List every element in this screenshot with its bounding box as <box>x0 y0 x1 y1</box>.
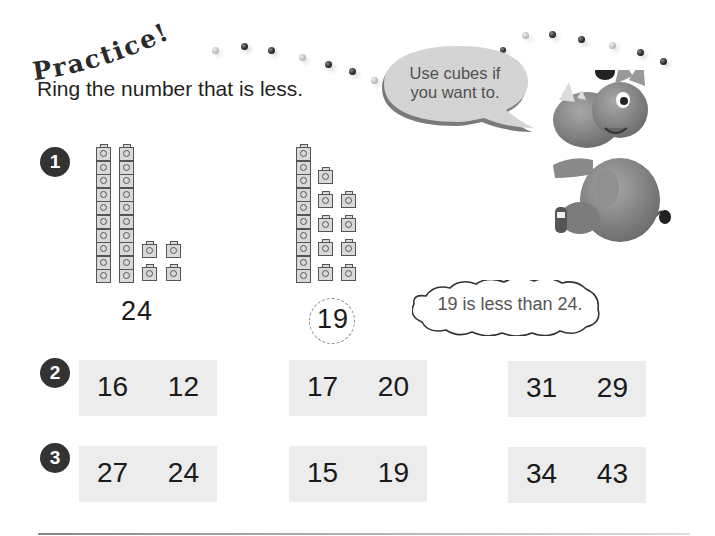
question-badge-3: 3 <box>40 443 70 473</box>
unit-cube <box>96 229 111 243</box>
unit-cube <box>318 170 333 184</box>
unit-cube <box>119 269 134 283</box>
number-pair-box: 27 24 <box>79 446 217 502</box>
dot-decoration <box>578 36 585 43</box>
unit-cube <box>96 256 111 270</box>
svg-text:Practice!: Practice! <box>31 17 174 86</box>
number-pair-box: 16 12 <box>79 360 217 416</box>
unit-cube <box>119 174 134 188</box>
dot-decoration <box>371 77 378 84</box>
unit-cube <box>96 269 111 283</box>
dot-decoration <box>660 58 667 65</box>
unit-cube <box>296 188 311 202</box>
unit-cube <box>166 244 181 258</box>
unit-cube <box>119 201 134 215</box>
dot-decoration <box>349 68 356 75</box>
unit-cube <box>119 147 134 161</box>
rhino-mascot-icon <box>545 70 675 245</box>
unit-cube <box>142 267 157 281</box>
number-choice[interactable]: 27 <box>97 457 128 489</box>
unit-cube <box>166 267 181 281</box>
unit-cube <box>96 215 111 229</box>
unit-cube <box>296 242 311 256</box>
number-choice[interactable]: 16 <box>97 371 128 403</box>
unit-cube <box>142 244 157 258</box>
speech-line-2: you want to. <box>400 83 510 102</box>
unit-cube <box>96 201 111 215</box>
number-choice[interactable]: 12 <box>168 371 199 403</box>
page-divider <box>38 533 690 535</box>
question-badge-1: 1 <box>40 147 70 177</box>
number-choice[interactable]: 43 <box>597 458 628 490</box>
unit-cube <box>341 242 356 256</box>
unit-cube <box>318 194 333 208</box>
dot-decoration <box>325 61 332 68</box>
dot-decoration <box>637 49 644 56</box>
unit-cube <box>296 229 311 243</box>
unit-cube <box>119 215 134 229</box>
unit-cube <box>296 215 311 229</box>
number-choice[interactable]: 24 <box>168 457 199 489</box>
dot-decoration <box>299 54 306 61</box>
number-pair-box: 31 29 <box>508 361 646 417</box>
number-pair-box: 17 20 <box>289 360 427 416</box>
example-number-right: 19 <box>317 304 349 335</box>
practice-title: Practice! <box>26 18 226 78</box>
dot-decoration <box>549 31 556 38</box>
number-choice[interactable]: 19 <box>378 457 409 489</box>
dot-decoration <box>609 42 616 49</box>
unit-cube <box>296 201 311 215</box>
unit-cube <box>96 242 111 256</box>
unit-cube <box>318 218 333 232</box>
unit-cube <box>318 242 333 256</box>
unit-cube <box>119 256 134 270</box>
speech-line-1: Use cubes if <box>400 64 510 83</box>
number-choice[interactable]: 20 <box>378 371 409 403</box>
unit-cube <box>119 242 134 256</box>
unit-cube <box>341 194 356 208</box>
unit-cube <box>341 267 356 281</box>
unit-cube <box>296 269 311 283</box>
number-choice[interactable]: 31 <box>526 372 557 404</box>
unit-cube <box>96 188 111 202</box>
dot-decoration <box>241 43 248 50</box>
unit-cube <box>119 229 134 243</box>
number-choice[interactable]: 29 <box>597 372 628 404</box>
dot-decoration <box>212 47 219 54</box>
unit-cube <box>296 174 311 188</box>
unit-cube <box>318 267 333 281</box>
unit-cube <box>119 161 134 175</box>
instruction-text: Ring the number that is less. <box>37 77 303 101</box>
unit-cube <box>296 256 311 270</box>
number-pair-box: 15 19 <box>289 446 427 502</box>
number-pair-box: 34 43 <box>508 447 646 503</box>
dot-decoration <box>268 47 275 54</box>
unit-cube <box>96 174 111 188</box>
explanation-text: 19 is less than 24. <box>420 294 600 315</box>
unit-cube <box>296 161 311 175</box>
example-number-left: 24 <box>121 296 153 327</box>
practice-title-text: Practice! <box>31 17 174 86</box>
unit-cube <box>341 218 356 232</box>
question-badge-2: 2 <box>40 358 70 388</box>
unit-cube <box>119 188 134 202</box>
number-choice[interactable]: 15 <box>307 457 338 489</box>
dot-decoration <box>522 32 529 39</box>
unit-cube <box>96 147 111 161</box>
number-choice[interactable]: 17 <box>307 371 338 403</box>
number-choice[interactable]: 34 <box>526 458 557 490</box>
unit-cube <box>96 161 111 175</box>
speech-bubble-text: Use cubes if you want to. <box>400 64 510 102</box>
unit-cube <box>296 147 311 161</box>
